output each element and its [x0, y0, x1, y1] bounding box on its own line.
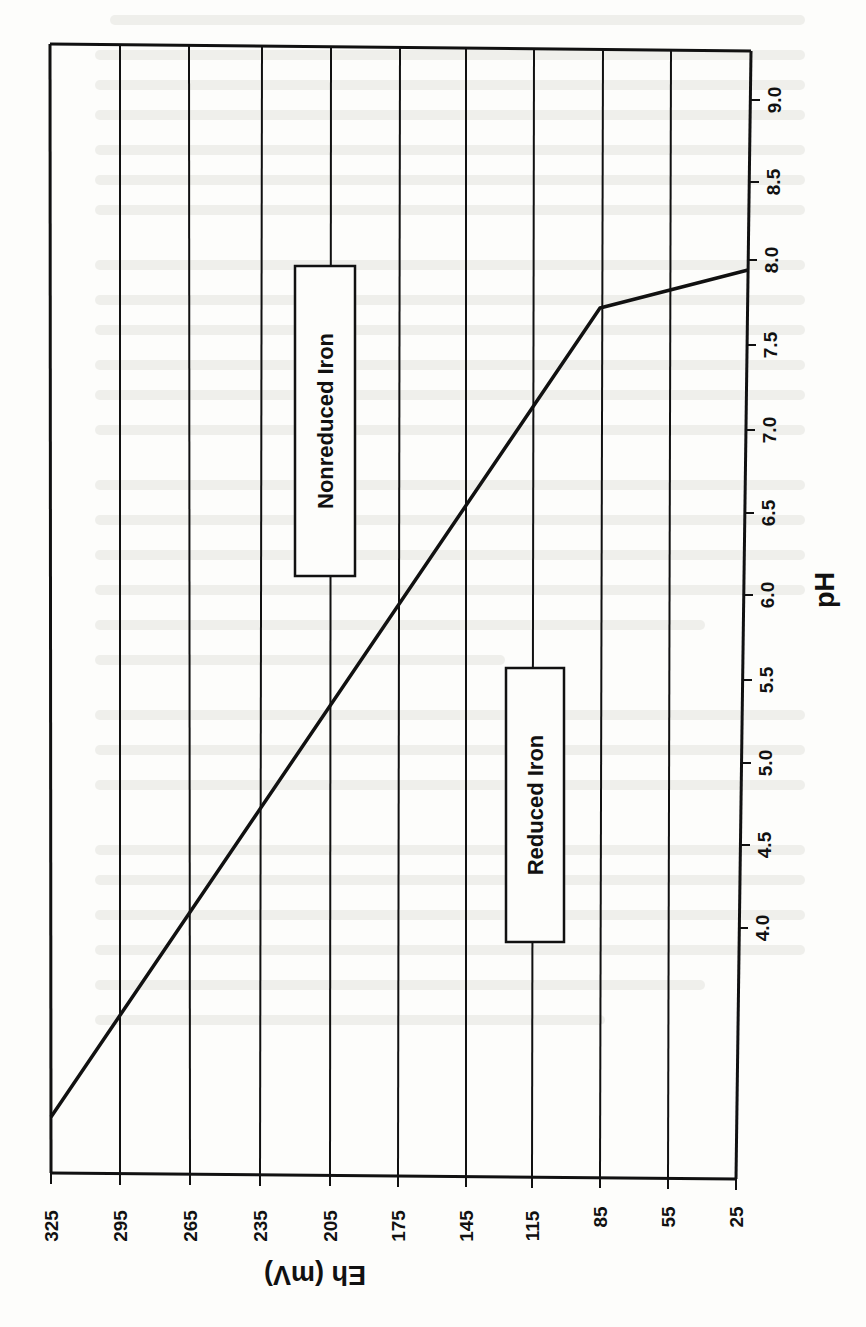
- svg-text:265: 265: [180, 1210, 201, 1242]
- svg-text:8.0: 8.0: [761, 247, 782, 273]
- svg-text:25: 25: [726, 1206, 747, 1228]
- y-axis-title: Eh (mV): [264, 1260, 366, 1290]
- ph-tick-labels: 9.0 8.5 8.0 7.5 7.0 6.5 6.0 5.5 5.0 4.5 …: [752, 87, 785, 941]
- svg-text:295: 295: [110, 1210, 131, 1242]
- svg-text:5.5: 5.5: [756, 666, 777, 693]
- svg-text:205: 205: [320, 1210, 341, 1242]
- svg-text:175: 175: [388, 1210, 409, 1242]
- svg-text:4.5: 4.5: [754, 831, 775, 858]
- svg-text:Reduced Iron: Reduced Iron: [523, 735, 548, 876]
- svg-text:7.5: 7.5: [760, 331, 781, 358]
- svg-text:55: 55: [658, 1206, 679, 1228]
- svg-text:9.0: 9.0: [764, 87, 785, 113]
- svg-text:5.0: 5.0: [755, 750, 776, 776]
- eh-tick-labels: 325 295 265 235 205 175 145 115 85 55 25: [41, 1206, 747, 1242]
- svg-text:85: 85: [590, 1206, 611, 1228]
- svg-text:235: 235: [250, 1210, 271, 1242]
- svg-text:8.5: 8.5: [763, 168, 784, 195]
- region-label-nonreduced: Nonreduced Iron: [295, 266, 355, 576]
- eh-ph-chart: 325 295 265 235 205 175 145 115 85 55 25…: [0, 0, 866, 1327]
- svg-text:4.0: 4.0: [752, 915, 773, 941]
- svg-text:325: 325: [41, 1210, 62, 1242]
- svg-text:6.0: 6.0: [757, 582, 778, 608]
- svg-text:6.5: 6.5: [758, 499, 779, 526]
- x-axis-title: pH: [810, 572, 840, 608]
- region-label-reduced: Reduced Iron: [506, 668, 564, 942]
- svg-text:Nonreduced Iron: Nonreduced Iron: [313, 333, 338, 509]
- svg-text:145: 145: [456, 1210, 477, 1242]
- svg-text:115: 115: [522, 1210, 543, 1241]
- svg-text:7.0: 7.0: [759, 417, 780, 443]
